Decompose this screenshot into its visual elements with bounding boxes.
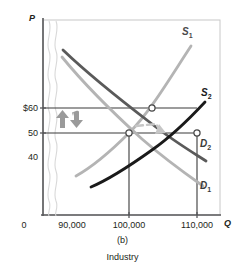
curve-label-d1-sub: 1 <box>207 186 211 193</box>
arrow-curve-down-icon <box>70 111 83 128</box>
y-tick-label-40: 40 <box>0 152 38 162</box>
equilibrium-point-intermediate <box>149 105 155 111</box>
x-tick-label-110000: 110,000 <box>171 220 223 230</box>
arrow-up-icon <box>56 110 69 128</box>
shift-arrows <box>56 110 83 128</box>
x-tick-label-100000: 100,000 <box>103 220 155 230</box>
q-axis-label: Q <box>224 218 231 228</box>
curve-label-d2-sub: 2 <box>207 144 211 151</box>
axis-break-squiggle <box>48 21 57 216</box>
x-tick-label-0: 0 <box>16 220 32 230</box>
curve-label-s2: S2 <box>201 87 212 100</box>
curve-d1 <box>62 57 203 186</box>
curve-label-d1: D1 <box>200 180 211 193</box>
curve-label-s1-text: S <box>182 26 189 37</box>
y-tick-label-60: $60 <box>0 103 38 113</box>
curve-label-s1: S1 <box>182 26 193 39</box>
p-axis-label: P <box>29 13 35 23</box>
figure-subtitle: Industry <box>0 252 245 262</box>
curve-d2 <box>63 50 206 161</box>
equilibrium-point-new <box>194 130 200 136</box>
equilibrium-point-old <box>126 130 132 136</box>
curve-label-d2: D2 <box>200 138 211 151</box>
curve-label-s2-text: S <box>201 87 208 98</box>
panel-label: (b) <box>0 235 245 245</box>
curve-label-s2-sub: 2 <box>208 93 212 100</box>
y-tick-label-50: 50 <box>0 128 38 138</box>
figure-supply-demand-industry: P Q $60 50 40 0 90,000 100,000 110,000 S… <box>0 0 245 271</box>
plot-frame <box>43 20 220 215</box>
curve-label-s1-sub: 1 <box>189 32 193 39</box>
x-tick-label-90000: 90,000 <box>48 220 96 230</box>
